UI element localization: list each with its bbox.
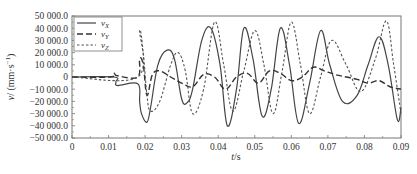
y-tick-label: 40 000.0 xyxy=(35,24,69,34)
y-tick-label: −40 000.0 xyxy=(29,121,68,131)
x-tick-label: 0.08 xyxy=(356,142,373,152)
line-chart: 50 000.040 000.030 000.020 000.010 000.0… xyxy=(0,0,417,174)
y-tick-label: −50 000.0 xyxy=(29,133,68,143)
y-axis-title: v/ (mm·s−1) xyxy=(4,54,17,101)
x-tick-label: 0.01 xyxy=(100,142,117,152)
x-tick-label: 0.03 xyxy=(173,142,190,152)
y-tick-label: −30 000.0 xyxy=(29,109,68,119)
x-tick-label: 0.07 xyxy=(320,142,337,152)
y-tick-label: 20 000.0 xyxy=(35,48,69,58)
x-tick-label: 0.06 xyxy=(283,142,300,152)
y-tick-label: 10 000.0 xyxy=(35,60,69,70)
y-tick-label: −20 000.0 xyxy=(29,97,68,107)
x-tick-label: 0.02 xyxy=(137,142,154,152)
x-tick-label: 0.09 xyxy=(393,142,410,152)
y-tick-label: 50 000.0 xyxy=(35,11,69,21)
y-tick-label: 0 xyxy=(63,72,68,82)
x-tick-label: 0.04 xyxy=(210,142,227,152)
x-tick-label: 0 xyxy=(70,142,75,152)
y-tick-label: 30 000.0 xyxy=(35,36,69,46)
y-tick-label: −10 000.0 xyxy=(29,85,68,95)
x-tick-label: 0.05 xyxy=(246,142,263,152)
y-axis: 50 000.040 000.030 000.020 000.010 000.0… xyxy=(29,11,75,143)
legend: vX vY vZ xyxy=(74,17,122,51)
x-axis-title: t/s xyxy=(231,151,241,162)
